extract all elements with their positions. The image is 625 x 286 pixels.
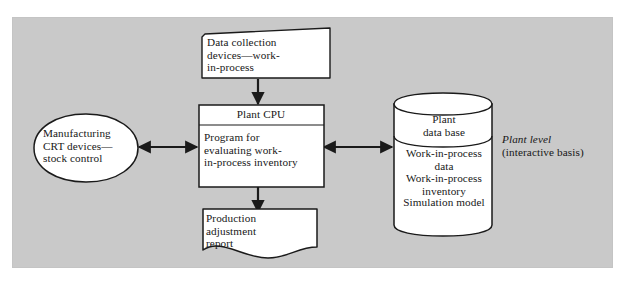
production-report-label: Production adjustment report [206,212,316,250]
plant-database-body-secondary: Simulation model [394,196,494,209]
data-collection-label: Data collection devices—work- in-process [207,36,325,74]
diagram-canvas: Data collection devices—work- in-process… [0,0,625,286]
plant-cpu-body-label: Program for evaluating work- in-process … [204,131,322,169]
interactive-basis-annotation: (interactive basis) [502,146,612,159]
plant-database-header: Plant data base [396,113,492,138]
plant-database-body-primary: Work-in-process data Work-in-process inv… [394,147,494,197]
plant-level-annotation: Plant level [502,133,608,146]
crt-devices-label: Manufacturing CRT devices— stock control [43,127,147,165]
plant-cpu-header: Plant CPU [200,108,322,121]
